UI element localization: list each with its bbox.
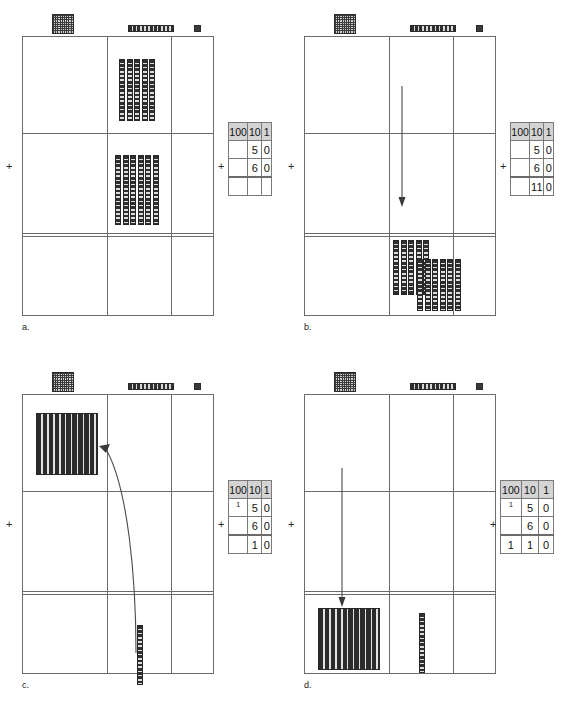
cell-sum-hundreds: 1 <box>501 535 522 554</box>
cell-addend1-hundreds <box>511 141 530 159</box>
legend-a <box>0 14 200 36</box>
cell-addend2-tens: 6 <box>521 517 539 536</box>
tens-rod <box>440 259 446 311</box>
plus-sign-grid-d: + <box>288 518 294 530</box>
table-header-row: 100 10 1 <box>229 481 272 499</box>
tens-rod <box>417 259 423 311</box>
tens-rod <box>123 155 129 225</box>
tens-rod <box>127 59 133 121</box>
grid-divider-tens-ones <box>453 395 454 673</box>
cell-sum-tens <box>248 177 262 196</box>
hundreds-flat-icon <box>52 14 74 34</box>
hundreds-flat-icon <box>52 372 74 392</box>
ones-unit-icon <box>194 25 201 32</box>
header-tens: 10 <box>521 481 539 499</box>
grid-sum-double-line <box>305 591 495 595</box>
cell-addend2-tens: 6 <box>248 517 262 536</box>
table-sum-row: 1 1 0 <box>501 535 554 554</box>
header-hundreds: 100 <box>229 123 248 141</box>
table-row: 1 5 0 <box>501 499 554 517</box>
hundreds-flat-icon <box>334 14 356 34</box>
grid-divider-tens-ones <box>171 395 172 673</box>
cell-addend1-tens: 5 <box>248 141 262 159</box>
grid-divider-tens-ones <box>171 37 172 315</box>
table-sum-row: 11 0 <box>511 177 554 196</box>
grid-divider-hundreds-tens <box>389 395 390 673</box>
grid-divider-hundreds-tens <box>107 395 108 673</box>
tens-rod <box>419 613 425 673</box>
plus-sign-table-c: + <box>218 518 224 530</box>
tens-rod-icon <box>128 383 174 390</box>
header-tens: 10 <box>248 123 262 141</box>
grid-divider-hundreds-tens <box>107 37 108 315</box>
table-row: 6 0 <box>229 517 272 536</box>
plus-sign-table-a: + <box>218 160 224 172</box>
cell-addend2-ones: 0 <box>539 517 554 536</box>
panel-label-a: a. <box>22 322 30 332</box>
tens-rod <box>425 259 431 311</box>
cell-addend2-ones: 0 <box>262 159 272 178</box>
cell-sum-tens: 11 <box>530 177 544 196</box>
place-value-table-a: 100 10 1 5 0 6 0 <box>228 122 272 196</box>
cell-addend1-hundreds: 1 <box>501 499 522 517</box>
block-group-sum-tens <box>137 625 143 685</box>
cell-addend1-ones: 0 <box>262 499 272 517</box>
tens-rod <box>145 155 151 225</box>
cell-addend1-ones: 0 <box>262 141 272 159</box>
table-row: 5 0 <box>511 141 554 159</box>
block-group-sum-tens <box>419 613 425 673</box>
cell-addend2-ones: 0 <box>262 517 272 536</box>
grid-divider-hundreds-tens <box>389 37 390 315</box>
tens-rod <box>137 625 143 685</box>
tens-rod <box>408 240 414 295</box>
panel-label-b: b. <box>304 322 312 332</box>
header-ones: 1 <box>539 481 554 499</box>
cell-addend2-hundreds <box>501 517 522 536</box>
grid-divider-row1-row2 <box>23 491 213 492</box>
header-tens: 10 <box>248 481 262 499</box>
table-sum-row: 1 0 <box>229 535 272 554</box>
block-group-sum-tens-lower <box>417 259 461 311</box>
cell-sum-ones: 0 <box>262 535 272 554</box>
tens-rod <box>119 59 125 121</box>
place-value-table-b: 100 10 1 5 0 6 0 11 0 <box>510 122 554 196</box>
plus-sign-grid-b: + <box>288 160 294 172</box>
cell-sum-tens: 1 <box>248 535 262 554</box>
cell-addend2-ones: 0 <box>544 159 554 178</box>
place-value-grid-a <box>22 36 214 316</box>
header-hundreds: 100 <box>229 481 248 499</box>
panel-c: + c. + 100 10 1 1 5 0 6 0 1 0 <box>0 358 272 703</box>
tens-rod <box>401 240 407 295</box>
tens-rod <box>115 155 121 225</box>
cell-sum-hundreds <box>229 177 248 196</box>
grid-divider-row1-row2 <box>23 133 213 134</box>
cell-addend1-hundreds: 1 <box>229 499 248 517</box>
tens-rod <box>393 240 399 295</box>
header-hundreds: 100 <box>501 481 522 499</box>
table-row: 6 0 <box>511 159 554 178</box>
cell-sum-ones: 0 <box>539 535 554 554</box>
table-sum-row <box>229 177 272 196</box>
place-value-grid-b <box>304 36 496 316</box>
header-ones: 1 <box>262 123 272 141</box>
tens-rod-icon <box>128 25 174 32</box>
cell-addend1-hundreds <box>229 141 248 159</box>
plus-sign-table-b: + <box>500 160 506 172</box>
place-value-table-c: 100 10 1 1 5 0 6 0 1 0 <box>228 480 272 554</box>
legend-c <box>0 372 200 394</box>
ones-unit-icon <box>194 383 201 390</box>
table-header-row: 100 10 1 <box>229 123 272 141</box>
place-value-grid-c <box>22 394 214 674</box>
block-group-addend1-tens <box>119 59 155 121</box>
block-group-addend2-tens <box>115 155 159 225</box>
cell-addend2-hundreds <box>229 159 248 178</box>
cell-addend2-hundreds <box>229 517 248 536</box>
grid-sum-double-line <box>305 233 495 237</box>
table-row: 6 0 <box>229 159 272 178</box>
tens-rod-icon <box>410 25 456 32</box>
table-row: 6 0 <box>501 517 554 536</box>
grid-divider-row1-row2 <box>305 491 495 492</box>
block-sum-hundreds-flat <box>318 608 380 670</box>
header-ones: 1 <box>544 123 554 141</box>
legend-d <box>282 372 482 394</box>
